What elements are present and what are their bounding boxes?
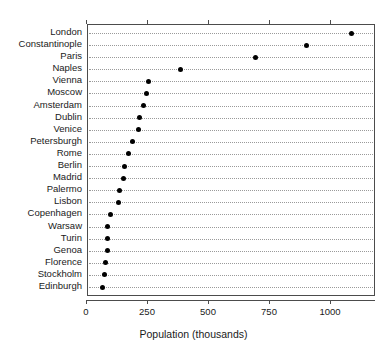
- gridline-row: [89, 178, 373, 180]
- y-axis-label: Petersburgh: [0, 136, 82, 146]
- y-axis-label: Copenhagen: [0, 208, 82, 218]
- y-axis-label: Turin: [0, 233, 82, 243]
- x-tick-label: 0: [63, 306, 109, 317]
- data-point: [122, 164, 127, 169]
- data-point: [304, 43, 309, 48]
- x-tick-mark-top: [330, 20, 331, 24]
- x-tick-mark: [147, 300, 148, 304]
- x-tick-mark: [269, 300, 270, 304]
- y-axis-label: Rome: [0, 148, 82, 158]
- gridline-row: [89, 33, 373, 35]
- x-tick-label: 500: [185, 306, 231, 317]
- x-tick-mark-top: [86, 20, 87, 24]
- data-point: [349, 31, 354, 36]
- gridline-row: [89, 275, 373, 277]
- y-axis-label: Naples: [0, 63, 82, 73]
- x-tick-mark-top: [269, 20, 270, 24]
- y-axis-label: Palermo: [0, 184, 82, 194]
- x-tick-mark: [208, 300, 209, 304]
- gridline-row: [89, 190, 373, 192]
- plot-area: [88, 25, 374, 295]
- gridline-row: [89, 239, 373, 241]
- y-axis-label: Vienna: [0, 75, 82, 85]
- y-axis-label: Genoa: [0, 245, 82, 255]
- y-axis-label: Stockholm: [0, 269, 82, 279]
- y-axis-label: Constantinople: [0, 39, 82, 49]
- x-tick-mark-top: [147, 20, 148, 24]
- data-point: [253, 55, 258, 60]
- gridline-row: [89, 81, 373, 83]
- y-axis-label: Edinburgh: [0, 281, 82, 291]
- gridline-row: [89, 130, 373, 132]
- gridline-row: [89, 166, 373, 168]
- x-axis-title: Population (thousands): [0, 328, 387, 340]
- x-tick-label: 750: [246, 306, 292, 317]
- gridline-row: [89, 214, 373, 216]
- plot-panel: [87, 24, 375, 296]
- gridline-row: [89, 106, 373, 108]
- x-tick-label: 250: [124, 306, 170, 317]
- y-axis-label: Dublin: [0, 112, 82, 122]
- data-point: [141, 103, 146, 108]
- gridline-row: [89, 57, 373, 59]
- y-axis-label: Lisbon: [0, 196, 82, 206]
- gridline-row: [89, 227, 373, 229]
- gridline-row: [89, 154, 373, 156]
- data-point: [108, 212, 113, 217]
- gridline-row: [89, 202, 373, 204]
- gridline-row: [89, 251, 373, 253]
- y-axis-label: Florence: [0, 257, 82, 267]
- x-tick-mark: [330, 300, 331, 304]
- gridline-row: [89, 287, 373, 289]
- x-tick-label: 1000: [307, 306, 353, 317]
- data-point: [136, 127, 141, 132]
- data-point: [146, 79, 151, 84]
- data-point: [121, 176, 126, 181]
- gridline-row: [89, 118, 373, 120]
- y-axis-label: Venice: [0, 124, 82, 134]
- gridline-row: [89, 93, 373, 95]
- y-axis-label: Madrid: [0, 172, 82, 182]
- y-axis-label: Paris: [0, 51, 82, 61]
- dot-plot-figure: LondonConstantinopleParisNaplesViennaMos…: [0, 0, 387, 354]
- gridline-row: [89, 45, 373, 47]
- x-tick-mark-top: [208, 20, 209, 24]
- y-axis-label: Warsaw: [0, 221, 82, 231]
- x-tick-mark: [86, 300, 87, 304]
- y-axis-label: Berlin: [0, 160, 82, 170]
- y-axis-label: Amsterdam: [0, 100, 82, 110]
- y-axis-label: Moscow: [0, 87, 82, 97]
- gridline-row: [89, 263, 373, 265]
- x-axis-line: [87, 300, 375, 301]
- y-axis-label: London: [0, 27, 82, 37]
- data-point: [100, 285, 105, 290]
- gridline-row: [89, 69, 373, 71]
